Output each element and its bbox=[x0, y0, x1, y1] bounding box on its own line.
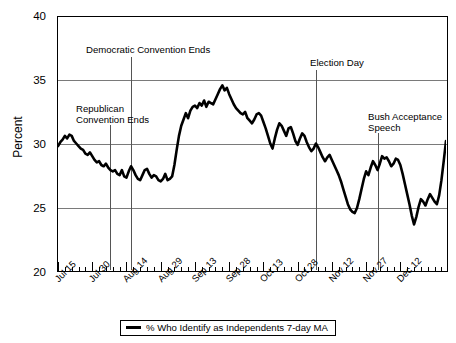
x-tick-minor bbox=[250, 267, 251, 271]
x-tick-minor bbox=[428, 267, 429, 271]
x-tick-minor bbox=[318, 267, 319, 271]
x-tick-minor bbox=[325, 267, 326, 271]
x-tick-minor bbox=[215, 267, 216, 271]
x-tick-minor bbox=[291, 267, 292, 271]
chart-legend: % Who Identify as Independents 7-day MA bbox=[120, 320, 336, 336]
legend-label: % Who Identify as Independents 7-day MA bbox=[146, 323, 328, 333]
x-tick-minor bbox=[284, 267, 285, 271]
y-tick-35: 35 bbox=[0, 75, 46, 87]
x-tick-minor bbox=[257, 267, 258, 271]
x-tick-minor bbox=[147, 267, 148, 271]
x-tick-minor bbox=[120, 267, 121, 271]
y-axis-labels: 40 35 30 25 20 bbox=[0, 0, 54, 343]
y-tick-25: 25 bbox=[0, 203, 46, 215]
plot-area: Republican Convention Ends Democratic Co… bbox=[57, 16, 448, 272]
x-tick-minor bbox=[188, 267, 189, 271]
annotation-election-day: Election Day bbox=[310, 57, 364, 68]
annotation-bush-line2: Speech bbox=[368, 122, 401, 133]
x-tick-minor bbox=[352, 267, 353, 271]
legend-swatch-icon bbox=[126, 326, 141, 329]
annotation-republican-line2: Convention Ends bbox=[76, 114, 149, 125]
chart-container: Percent 40 35 30 25 20 Republican Conven… bbox=[0, 0, 456, 343]
x-tick-minor bbox=[222, 267, 223, 271]
annotation-bush-line1: Bush Acceptance bbox=[368, 111, 442, 122]
x-tick-minor bbox=[359, 267, 360, 271]
x-tick-minor bbox=[113, 267, 114, 271]
x-tick-minor bbox=[85, 267, 86, 271]
y-tick-30: 30 bbox=[0, 139, 46, 151]
x-tick-minor bbox=[421, 267, 422, 271]
annotation-republican-line1: Republican bbox=[76, 103, 124, 114]
x-tick-minor bbox=[394, 267, 395, 271]
x-tick-minor bbox=[79, 267, 80, 271]
y-tick-20: 20 bbox=[0, 267, 46, 279]
x-tick-minor bbox=[387, 267, 388, 271]
x-tick-minor bbox=[441, 267, 442, 271]
x-tick-minor bbox=[435, 267, 436, 271]
y-tick-40: 40 bbox=[0, 11, 46, 23]
x-tick-minor bbox=[154, 267, 155, 271]
x-tick-minor bbox=[181, 267, 182, 271]
annotation-democratic: Democratic Convention Ends bbox=[86, 44, 210, 55]
